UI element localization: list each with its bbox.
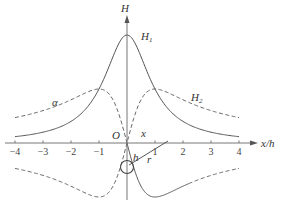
- x-tick-label: −4: [10, 146, 21, 157]
- x-tick-label: 4: [237, 146, 242, 157]
- h-distance-label: h: [133, 151, 139, 163]
- x-axis-arrow-icon: [250, 141, 258, 146]
- origin-label: O: [112, 129, 120, 141]
- y-axis-arrow-icon: [125, 15, 130, 23]
- r-distance-label: r: [147, 153, 152, 165]
- x-distance-label: x: [140, 127, 146, 139]
- alpha-label: α: [52, 96, 58, 108]
- x-tick-label: −1: [94, 146, 105, 157]
- x-axis-label: x/h: [260, 137, 275, 149]
- h1-label: H1: [140, 30, 152, 44]
- h2-label: H2: [190, 91, 203, 105]
- x-tick-label: 2: [181, 146, 186, 157]
- x-tick-label: 3: [209, 146, 214, 157]
- x-tick-label: −3: [38, 146, 49, 157]
- h2-curve-lower-right-tail: [189, 168, 239, 183]
- y-axis-label: H: [120, 2, 130, 14]
- x-tick-label: −2: [66, 146, 77, 157]
- field-distribution-diagram: −4−3−2−11234 H x/h O H1 H2 α x h r: [0, 0, 284, 211]
